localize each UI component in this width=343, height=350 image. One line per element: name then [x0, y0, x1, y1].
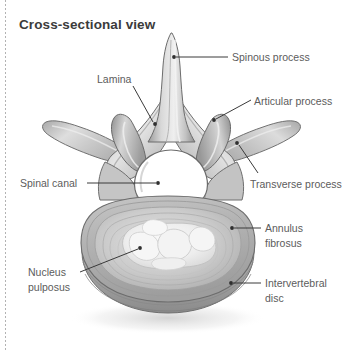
articular-process-leader [216, 100, 251, 119]
nucleus-lobe-lower [152, 258, 186, 270]
label-transverse-process-line-1: Transverse process [250, 177, 342, 192]
intervertebral-disc-leader-dot [229, 281, 233, 285]
figure-canvas: Cross-sectional view [0, 0, 343, 350]
annulus-fibrosus-leader-dot [230, 226, 234, 230]
label-spinous-process-line-1: Spinous process [232, 50, 310, 65]
label-spinal-canal: Spinal canal [20, 176, 77, 191]
spinal-canal-leader-dot [156, 181, 160, 185]
spinous-process-leader-dot [172, 55, 176, 59]
nucleus-lobe-upper [142, 220, 167, 236]
articular-process-leader-dot [212, 118, 216, 122]
lamina-leader-dot [153, 122, 157, 126]
label-annulus-fibrosus-line-2: fibrosus [265, 236, 303, 251]
label-transverse-process: Transverse process [250, 177, 342, 192]
transverse-process-leader-dot [235, 141, 239, 145]
label-lamina: Lamina [97, 72, 131, 87]
label-spinal-canal-line-1: Spinal canal [20, 176, 77, 191]
label-nucleus-pulposus-line-2: pulposus [28, 280, 70, 295]
label-nucleus-pulposus-line-1: Nucleus [28, 265, 70, 280]
label-intervertebral-disc-line-1: Intervertebral [265, 276, 327, 291]
label-intervertebral-disc: Intervertebral disc [265, 276, 327, 305]
intervertebral-disc-body [81, 196, 255, 313]
label-nucleus-pulposus: Nucleus pulposus [28, 265, 70, 294]
nucleus-pulposus-leader-dot [138, 246, 142, 250]
label-annulus-fibrosus: Annulus fibrosus [265, 221, 303, 250]
label-articular-process-line-1: Articular process [254, 94, 332, 109]
label-articular-process: Articular process [254, 94, 332, 109]
lamina-leader [133, 86, 153, 122]
label-intervertebral-disc-line-2: disc [265, 291, 327, 306]
label-annulus-fibrosus-line-1: Annulus [265, 221, 303, 236]
label-lamina-line-1: Lamina [97, 72, 131, 87]
label-spinous-process: Spinous process [232, 50, 310, 65]
